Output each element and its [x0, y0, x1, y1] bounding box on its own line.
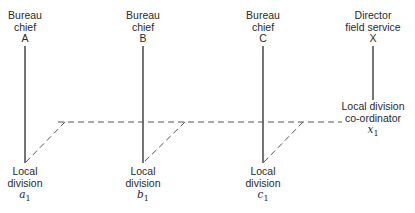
node-local-division-b1: Local division b1 [125, 166, 160, 205]
symbol-x1: x1 [341, 124, 404, 140]
symbol-a1: a1 [7, 189, 42, 205]
symbol-c1: c1 [245, 189, 280, 205]
dashed-edge-x1-a1 [25, 122, 65, 163]
dashed-edge-x1-c1 [263, 122, 303, 163]
symbol-b1: b1 [125, 189, 160, 205]
node-bureau-chief-b: Bureau chief B [126, 10, 160, 45]
node-local-division-a1: Local division a1 [7, 166, 42, 205]
dashed-edge-x1-b1 [143, 122, 185, 163]
node-local-division-coordinator-x1: Local division co-ordinator x1 [341, 101, 404, 140]
node-director-field-service-x: Director field service X [345, 10, 400, 45]
node-bureau-chief-c: Bureau chief C [246, 10, 280, 45]
node-local-division-c1: Local division c1 [245, 166, 280, 205]
node-bureau-chief-a: Bureau chief A [8, 10, 42, 45]
